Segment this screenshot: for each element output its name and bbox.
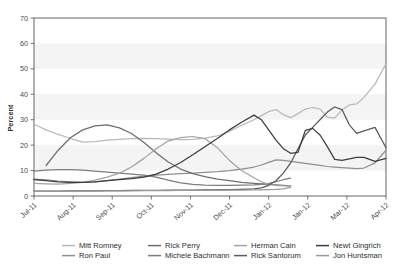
y-tick-label: 70 — [20, 14, 28, 23]
legend-label: Ron Paul — [79, 251, 111, 260]
background-band — [34, 43, 386, 68]
poll-line-chart: 010203040506070 Jul-11Aug-11Sep-11Oct-11… — [0, 0, 402, 270]
chart-figure: 010203040506070 Jul-11Aug-11Sep-11Oct-11… — [0, 0, 402, 270]
legend-label: Mitt Romney — [79, 241, 122, 250]
legend-label: Michele Bachmann — [165, 251, 230, 260]
legend-label: Newt Gingrich — [333, 241, 381, 250]
y-tick-label: 10 — [20, 166, 28, 175]
y-tick-label: 40 — [20, 90, 28, 99]
legend-label: Rick Santorum — [251, 251, 301, 260]
y-tick-label: 0 — [24, 192, 28, 201]
y-tick-label: 60 — [20, 39, 28, 48]
y-axis-label: Percent — [6, 104, 15, 132]
y-tick-label: 50 — [20, 64, 28, 73]
background-bands — [34, 43, 386, 170]
legend-label: Rick Perry — [165, 241, 200, 250]
y-tick-label: 20 — [20, 141, 28, 150]
legend-label: Herman Cain — [251, 241, 296, 250]
legend-label: Jon Huntsman — [333, 251, 382, 260]
y-tick-label: 30 — [20, 115, 28, 124]
background-band — [34, 94, 386, 119]
